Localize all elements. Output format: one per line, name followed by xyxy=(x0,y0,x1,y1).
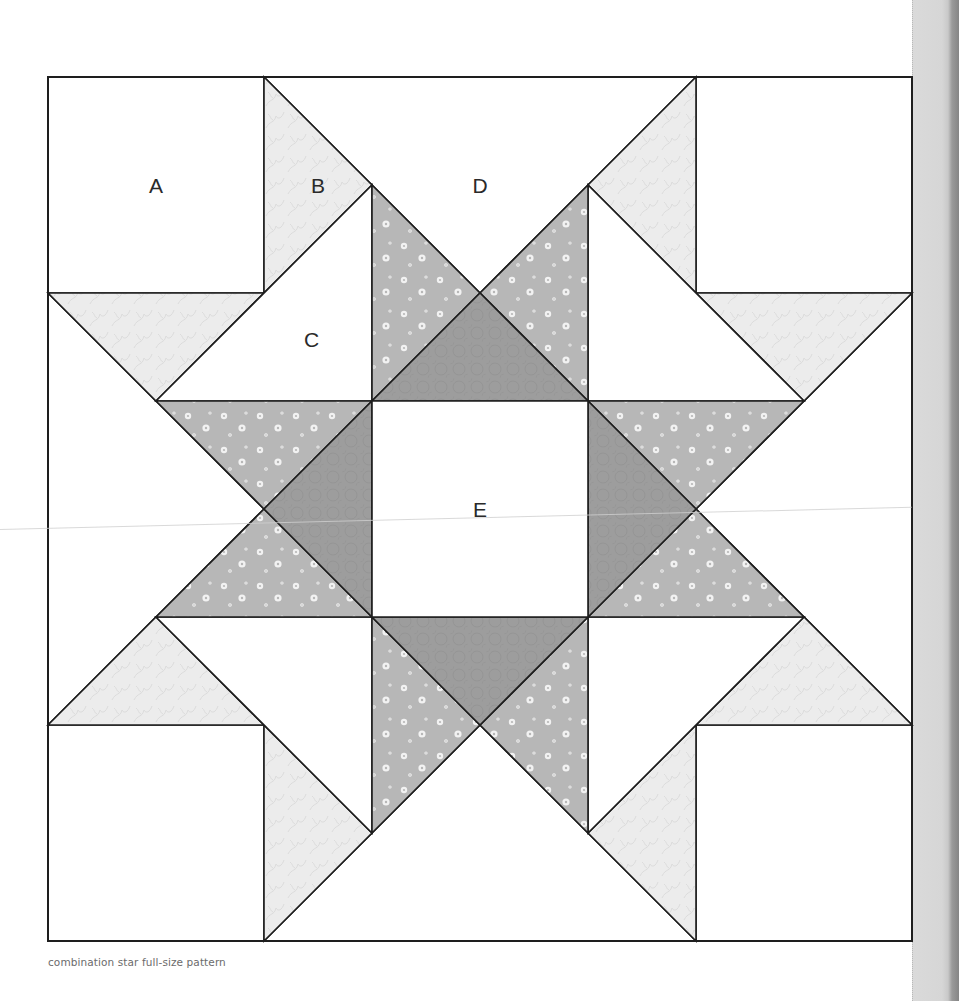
figure-caption: combination star full-size pattern xyxy=(48,956,226,968)
piece-a-top-right xyxy=(696,77,912,293)
quilt-block-diagram: ABDCE xyxy=(0,0,959,1001)
piece-label-a: A xyxy=(149,174,163,197)
piece-label-c: C xyxy=(304,328,319,351)
piece-label-b: B xyxy=(311,174,325,197)
piece-a-bottom-left xyxy=(48,725,264,941)
pattern-page: ABDCE combination star full-size pattern xyxy=(0,0,959,1001)
piece-a-bottom-right xyxy=(696,725,912,941)
piece-label-d: D xyxy=(472,174,487,197)
